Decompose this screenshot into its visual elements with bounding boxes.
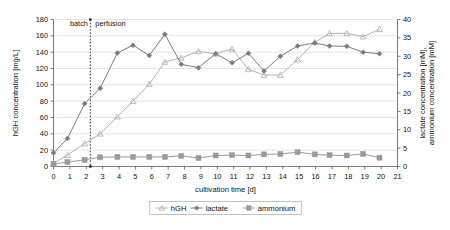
- chart-container: 020406080100120140160180 051015202530354…: [0, 0, 450, 230]
- tick-label-y-right: 0: [403, 162, 407, 171]
- tick-label-x: 5: [133, 172, 137, 181]
- chart-background: [0, 0, 450, 230]
- data-point-ammonium: [377, 155, 382, 160]
- tick-label-x: 16: [311, 172, 319, 181]
- phase-annotation-perfusion: perfusion: [95, 19, 125, 28]
- tick-label-y-left: 100: [36, 80, 48, 89]
- y-axis-title-right-line1: lactate concentration [mM],: [418, 47, 427, 138]
- tick-label-x: 2: [84, 172, 88, 181]
- tick-label-y-right: 5: [403, 144, 407, 153]
- legend-marker-square: [247, 206, 252, 211]
- tick-label-y-right: 10: [403, 125, 411, 134]
- tick-label-y-left: 140: [36, 48, 48, 57]
- data-point-ammonium: [196, 156, 201, 161]
- tick-label-x: 18: [344, 172, 352, 181]
- tick-label-y-left: 60: [40, 113, 48, 122]
- tick-label-y-left: 20: [40, 146, 48, 155]
- tick-label-y-right: 40: [403, 15, 411, 24]
- tick-label-x: 19: [361, 172, 369, 181]
- tick-label-x: 15: [295, 172, 303, 181]
- y-axis-title-right-line2: ammonium concentration [mM]: [427, 41, 436, 145]
- tick-label-x: 13: [262, 172, 270, 181]
- legend-label-lactate: lactate: [206, 204, 228, 213]
- tick-label-y-right: 30: [403, 52, 411, 61]
- tick-label-x: 6: [150, 172, 154, 181]
- tick-label-x: 1: [68, 172, 72, 181]
- data-point-ammonium: [162, 154, 167, 159]
- tick-label-y-left: 80: [40, 97, 48, 106]
- tick-label-y-left: 40: [40, 129, 48, 138]
- tick-label-x: 9: [199, 172, 203, 181]
- data-point-ammonium: [179, 153, 184, 158]
- data-point-ammonium: [130, 154, 135, 159]
- data-point-ammonium: [261, 152, 266, 157]
- legend-label-ammonium: ammonium: [258, 204, 296, 213]
- data-point-ammonium: [213, 153, 218, 158]
- data-point-ammonium: [115, 154, 120, 159]
- divider-top-marker: [89, 18, 91, 20]
- tick-label-x: 4: [117, 172, 121, 181]
- legend-label-hGH: hGH: [171, 204, 187, 213]
- tick-label-x: 12: [246, 172, 254, 181]
- tick-label-y-left: 120: [36, 64, 48, 73]
- y-axis-title-left: hGH concentration [mg/L]: [11, 50, 20, 137]
- tick-label-x: 14: [279, 172, 287, 181]
- data-point-ammonium: [98, 155, 103, 160]
- tick-label-y-left: 160: [36, 31, 48, 40]
- tick-label-y-right: 15: [403, 107, 411, 116]
- tick-label-x: 10: [213, 172, 221, 181]
- phase-annotation-batch: batch: [70, 19, 88, 28]
- data-point-ammonium: [51, 161, 56, 166]
- data-point-ammonium: [344, 153, 349, 158]
- data-point-ammonium: [230, 153, 235, 158]
- x-axis-title: cultivation time [d]: [195, 185, 256, 194]
- tick-label-x: 0: [51, 172, 55, 181]
- tick-label-x: 11: [230, 172, 238, 181]
- phase-annotations: batchperfusion: [70, 19, 126, 28]
- tick-label-x: 17: [328, 172, 336, 181]
- tick-label-y-right: 35: [403, 33, 411, 42]
- data-point-ammonium: [327, 153, 332, 158]
- data-point-ammonium: [246, 153, 251, 158]
- data-point-ammonium: [361, 152, 366, 157]
- tick-label-y-right: 25: [403, 70, 411, 79]
- tick-label-x: 7: [166, 172, 170, 181]
- tick-label-y-left: 0: [44, 162, 48, 171]
- tick-label-y-left: 180: [36, 15, 48, 24]
- tick-label-y-right: 20: [403, 89, 411, 98]
- tick-label-x: 3: [101, 172, 105, 181]
- data-point-ammonium: [295, 150, 300, 155]
- tick-label-x: 8: [182, 172, 186, 181]
- tick-label-x: 21: [393, 172, 401, 181]
- data-point-ammonium: [65, 160, 70, 165]
- cultivation-time-course-chart: 020406080100120140160180 051015202530354…: [0, 0, 450, 230]
- data-point-ammonium: [147, 154, 152, 159]
- divider-bottom-marker: [89, 165, 91, 167]
- data-point-ammonium: [312, 152, 317, 157]
- chart-legend[interactable]: hGHlactateammonium: [150, 202, 301, 215]
- tick-label-x: 20: [377, 172, 385, 181]
- data-point-ammonium: [82, 157, 87, 162]
- data-point-ammonium: [278, 152, 283, 157]
